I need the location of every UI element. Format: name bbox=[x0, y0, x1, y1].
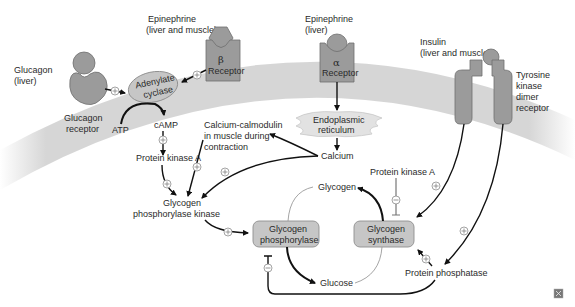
epinephrine-alpha-site: (liver) bbox=[305, 25, 328, 35]
epinephrine-beta-group: Epinephrine (liver and muscle) β Recepto… bbox=[146, 14, 245, 81]
plus-sign bbox=[193, 71, 201, 79]
tyrosine-label-4: receptor bbox=[516, 103, 549, 113]
glycogen-synthase-box: Glycogen synthase bbox=[354, 221, 414, 247]
plus-sign bbox=[163, 180, 171, 188]
plus-sign bbox=[159, 136, 167, 144]
camp-label: cAMP bbox=[154, 120, 178, 130]
gpk-label-1: Glycogen bbox=[163, 198, 201, 208]
glycogen-to-gp-line bbox=[288, 187, 313, 221]
tyrosine-kinase-receptor-right-icon bbox=[492, 60, 512, 124]
calmodulin-label-1: Calcium-calmodulin bbox=[204, 120, 283, 130]
glucose-to-gs-line bbox=[355, 247, 382, 283]
calcium-to-gpk-arrow bbox=[202, 156, 318, 198]
plus-sign bbox=[224, 228, 232, 236]
protein-phosphatase-label: Protein phosphatase bbox=[405, 268, 488, 278]
pka-to-gpk-arrow bbox=[162, 165, 176, 195]
minus-sign bbox=[392, 196, 400, 204]
gs-to-glycogen-arrow bbox=[358, 188, 383, 221]
calmodulin-label-2: in muscle during bbox=[204, 131, 270, 141]
er-label-2: reticulum bbox=[318, 125, 355, 135]
glycogen-regulation-diagram: Glucagon (liver) Glucagon receptor Epine… bbox=[0, 0, 575, 307]
insulin-to-pp-arrow bbox=[445, 124, 503, 264]
plus-sign bbox=[422, 255, 430, 263]
atp-label: ATP bbox=[112, 125, 129, 135]
gp-label-1: Glycogen bbox=[269, 224, 307, 234]
epinephrine-beta-site: (liver and muscle) bbox=[146, 25, 217, 35]
tyrosine-label-2: kinase bbox=[516, 81, 542, 91]
insulin-site: (liver and muscle) bbox=[420, 48, 491, 58]
alpha-symbol: α bbox=[333, 57, 340, 68]
plus-sign bbox=[193, 163, 201, 171]
tyrosine-label-1: Tyrosine bbox=[516, 70, 550, 80]
glucagon-receptor-label: Glucagon bbox=[64, 113, 103, 123]
endoplasmic-reticulum: Endoplasmic reticulum bbox=[296, 112, 382, 137]
beta-receptor-label: Receptor bbox=[208, 66, 245, 76]
glucagon-receptor-label-2: receptor bbox=[66, 124, 99, 134]
calcium-to-calmodulin-arrow bbox=[270, 134, 318, 156]
plus-sign bbox=[432, 182, 440, 190]
insulin-label: Insulin bbox=[420, 37, 446, 47]
gp-label-2: phosphorylase bbox=[260, 235, 319, 245]
epinephrine-alpha-label: Epinephrine bbox=[305, 14, 353, 24]
alpha-receptor-label: Receptor bbox=[322, 68, 359, 78]
beta-symbol: β bbox=[218, 54, 224, 65]
gs-label-1: Glycogen bbox=[367, 224, 405, 234]
glucagon-receptor-icon bbox=[70, 72, 107, 105]
glycogen-phosphorylase-box: Glycogen phosphorylase bbox=[253, 221, 319, 247]
plus-sign bbox=[111, 87, 119, 95]
glucose-label: Glucose bbox=[320, 278, 353, 288]
plus-sign bbox=[221, 168, 229, 176]
pka-2-label: Protein kinase A bbox=[370, 167, 435, 177]
glucagon-label: Glucagon bbox=[14, 65, 53, 75]
tyrosine-label-3: dimer bbox=[516, 92, 539, 102]
glucagon-molecule-icon bbox=[73, 52, 95, 74]
er-label-1: Endoplasmic bbox=[313, 115, 365, 125]
gs-label-2: synthase bbox=[368, 235, 404, 245]
glycogen-label: Glycogen bbox=[318, 182, 356, 192]
plus-sign bbox=[460, 227, 468, 235]
gpk-label-2: phosphorylase kinase bbox=[133, 209, 220, 219]
glucagon-site: (liver) bbox=[14, 76, 37, 86]
expand-icon[interactable] bbox=[554, 289, 563, 298]
gp-to-glucose-arrow bbox=[287, 247, 315, 283]
calmodulin-label-3: contraction bbox=[204, 142, 248, 152]
epinephrine-beta-label: Epinephrine bbox=[148, 14, 196, 24]
pka-label: Protein kinase A bbox=[136, 153, 201, 163]
minus-sign bbox=[264, 264, 272, 272]
calcium-label: Calcium bbox=[321, 151, 354, 161]
